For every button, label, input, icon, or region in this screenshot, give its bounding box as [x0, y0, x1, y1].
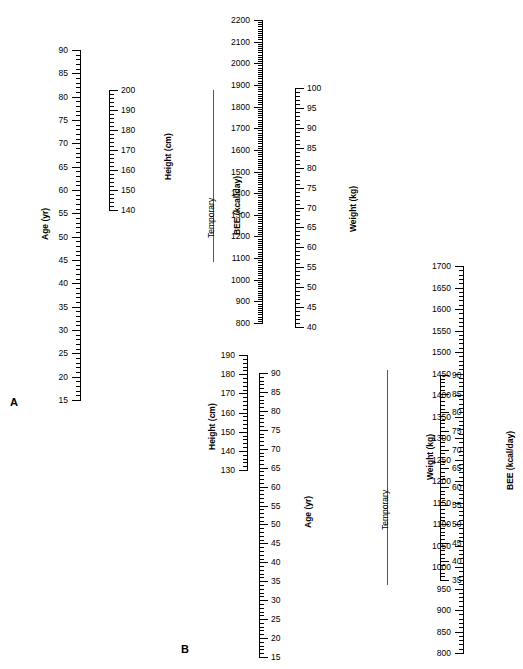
age-scale-b-minor-tick	[259, 559, 264, 560]
bee-scale-a-minor-tick	[258, 191, 263, 192]
bee-scale-a-minor-tick	[258, 200, 263, 201]
bee-scale-b-major-tick	[455, 331, 464, 332]
age-scale-a-tick-label: 85	[59, 69, 68, 78]
age-scale-b-major-tick	[259, 581, 268, 582]
age-scale-a-minor-tick	[76, 293, 81, 294]
height-scale-b-minor-tick	[243, 428, 248, 429]
bee-scale-a-minor-tick	[258, 219, 263, 220]
bee-scale-a-minor-tick	[258, 213, 263, 214]
age-scale-a-minor-tick	[76, 218, 81, 219]
bee-scale-b-minor-tick	[459, 356, 464, 357]
bee-scale-b-major-tick	[455, 524, 464, 525]
weight-scale-a-major-tick	[295, 327, 304, 328]
weight-scale-a-minor-tick	[295, 180, 300, 181]
height-scale-b-title: Height (cm)	[207, 403, 217, 450]
weight-scale-a-minor-tick	[295, 176, 300, 177]
bee-scale-a-minor-tick	[258, 252, 263, 253]
weight-scale-a-minor-tick	[295, 271, 300, 272]
height-scale-a-minor-tick	[109, 202, 114, 203]
weight-scale-a-major-tick	[295, 247, 304, 248]
bee-scale-a-minor-tick	[258, 109, 263, 110]
height-scale-a-minor-tick	[109, 158, 114, 159]
height-scale-b-major-tick	[239, 374, 248, 375]
weight-scale-b-minor-tick	[440, 509, 445, 510]
bee-scale-a-minor-tick	[258, 247, 263, 248]
weight-scale-b-minor-tick	[440, 532, 445, 533]
bee-scale-b-minor-tick	[459, 554, 464, 555]
age-scale-b-minor-tick	[259, 532, 264, 533]
bee-scale-a-minor-tick	[258, 146, 263, 147]
bee-scale-a-minor-tick	[258, 278, 263, 279]
weight-scale-a-major-tick	[295, 108, 304, 109]
age-scale-a-minor-tick	[76, 335, 81, 336]
bee-scale-a-minor-tick	[258, 39, 263, 40]
bee-scale-a-major-tick	[254, 150, 263, 151]
bee-scale-b-minor-tick	[459, 533, 464, 534]
bee-scale-b-tick-label: 1550	[432, 327, 451, 336]
age-scale-a-minor-tick	[76, 64, 81, 65]
bee-scale-b-minor-tick	[459, 464, 464, 465]
bee-scale-b-major-tick	[455, 653, 464, 654]
age-scale-b-title: Age (yr)	[303, 496, 313, 528]
weight-scale-b-minor-tick	[440, 382, 445, 383]
age-scale-b-minor-tick	[259, 608, 264, 609]
weight-scale-b-minor-tick	[440, 513, 445, 514]
bee-scale-a-minor-tick	[258, 161, 263, 162]
age-scale-b-minor-tick	[259, 490, 264, 491]
age-scale-a-major-tick	[72, 213, 81, 214]
height-scale-b-minor-tick	[243, 409, 248, 410]
bee-scale-a-major-tick	[254, 107, 263, 108]
height-scale-a-minor-tick	[109, 174, 114, 175]
weight-scale-a-minor-tick	[295, 200, 300, 201]
age-scale-b-minor-tick	[259, 464, 264, 465]
weight-scale-b-minor-tick	[440, 491, 445, 492]
bee-scale-b-minor-tick	[459, 584, 464, 585]
age-scale-b-tick-label: 80	[271, 407, 280, 416]
bee-scale-a-minor-tick	[258, 180, 263, 181]
bee-scale-a-major-tick	[254, 215, 263, 216]
bee-scale-b-minor-tick	[459, 507, 464, 508]
bee-scale-b-tick-label: 850	[437, 628, 451, 637]
bee-scale-b-minor-tick	[459, 412, 464, 413]
age-scale-a-tick-label: 55	[59, 209, 68, 218]
bee-scale-a-tick-label: 800	[236, 319, 250, 328]
age-scale-b-tick-label: 90	[271, 369, 280, 378]
bee-scale-a-minor-tick	[258, 167, 263, 168]
bee-scale-a-major-tick	[254, 301, 263, 302]
age-scale-b-minor-tick	[259, 589, 264, 590]
bee-scale-a-minor-tick	[258, 271, 263, 272]
bee-scale-b-major-tick	[455, 309, 464, 310]
weight-scale-a-minor-tick	[295, 192, 300, 193]
height-scale-b-tick-label: 170	[221, 389, 235, 398]
bee-scale-a-minor-tick	[258, 46, 263, 47]
age-scale-a-minor-tick	[76, 129, 81, 130]
height-scale-a-tick-label: 150	[121, 186, 135, 195]
height-scale-b-tick-label: 160	[221, 409, 235, 418]
weight-scale-a-minor-tick	[295, 92, 300, 93]
age-scale-a-major-tick	[72, 143, 81, 144]
height-scale-b-minor-tick	[243, 439, 248, 440]
bee-scale-b-minor-tick	[459, 627, 464, 628]
bee-scale-b-minor-tick	[459, 494, 464, 495]
height-scale-a-minor-tick	[109, 146, 114, 147]
age-scale-a-minor-tick	[76, 223, 81, 224]
bee-scale-b-minor-tick	[459, 455, 464, 456]
age-scale-b-minor-tick	[259, 407, 264, 408]
weight-scale-a-minor-tick	[295, 299, 300, 300]
bee-scale-b-minor-tick	[459, 485, 464, 486]
weight-scale-a-minor-tick	[295, 160, 300, 161]
height-scale-a-tick-label: 190	[121, 106, 135, 115]
bee-scale-a-minor-tick	[258, 239, 263, 240]
bee-scale-a-minor-tick	[258, 83, 263, 84]
bee-scale-b-minor-tick	[459, 571, 464, 572]
bee-scale-b-major-tick	[455, 374, 464, 375]
height-scale-a-minor-tick	[109, 114, 114, 115]
bee-scale-a-minor-tick	[258, 321, 263, 322]
age-scale-a-minor-tick	[76, 302, 81, 303]
bee-scale-b-minor-tick	[459, 348, 464, 349]
age-scale-a-minor-tick	[76, 288, 81, 289]
bee-scale-b-minor-tick	[459, 361, 464, 362]
weight-scale-a-tick-label: 75	[307, 184, 316, 193]
bee-scale-b-minor-tick	[459, 279, 464, 280]
age-scale-b-major-tick	[259, 430, 268, 431]
